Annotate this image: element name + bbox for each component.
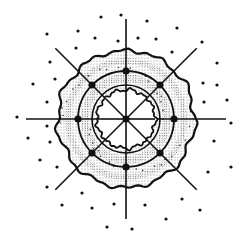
band-speck xyxy=(59,122,61,124)
band-speck xyxy=(142,170,144,172)
scatter-dot xyxy=(31,82,34,85)
band-speck xyxy=(118,67,120,69)
band-speck xyxy=(156,93,158,95)
band-speck xyxy=(154,165,156,167)
node-dot xyxy=(122,115,129,122)
scatter-dot xyxy=(170,50,173,53)
node-dot xyxy=(156,149,163,156)
scatter-dot xyxy=(215,83,218,86)
band-speck xyxy=(130,67,132,69)
node-dot xyxy=(170,115,177,122)
scatter-dot xyxy=(116,39,119,42)
scatter-dot xyxy=(60,203,63,206)
band-speck xyxy=(135,168,137,170)
scatter-dot xyxy=(45,100,48,103)
band-speck xyxy=(100,155,102,157)
band-speck xyxy=(61,107,63,109)
node-dot xyxy=(156,81,163,88)
band-speck xyxy=(189,125,191,127)
band-speck xyxy=(161,164,163,166)
scatter-dot xyxy=(200,40,203,43)
scatter-dot xyxy=(119,13,122,16)
scatter-dot xyxy=(38,158,41,161)
diagram-canvas xyxy=(0,0,244,245)
scatter-dot xyxy=(212,139,215,142)
scatter-dot xyxy=(180,197,183,200)
scatter-dot xyxy=(229,121,232,124)
band-speck xyxy=(171,156,173,158)
scatter-dot xyxy=(55,165,58,168)
band-speck xyxy=(62,115,64,117)
scatter-dot xyxy=(74,46,77,49)
band-speck xyxy=(90,129,92,131)
band-speck xyxy=(99,69,101,71)
band-speck xyxy=(148,81,150,83)
scatter-dot xyxy=(225,98,228,101)
band-speck xyxy=(109,161,111,163)
band-speck xyxy=(162,110,164,112)
band-speck xyxy=(98,150,100,152)
node-dot xyxy=(122,67,129,74)
scatter-dot xyxy=(175,26,178,29)
scatter-dot xyxy=(53,77,56,80)
scatter-dot xyxy=(145,19,148,22)
scatter-dot xyxy=(130,227,133,230)
scatter-dot xyxy=(105,225,108,228)
scatter-dot xyxy=(136,36,139,39)
band-speck xyxy=(72,88,74,90)
node-dot xyxy=(74,115,81,122)
band-speck xyxy=(179,145,181,147)
scatter-dot xyxy=(80,191,83,194)
scatter-dot xyxy=(93,36,96,39)
scatter-dot xyxy=(201,81,204,84)
ring-diagram xyxy=(0,0,244,245)
scatter-dot xyxy=(206,170,209,173)
scatter-dot xyxy=(48,140,51,143)
band-speck xyxy=(93,148,95,150)
scatter-dot xyxy=(229,165,232,168)
scatter-dot xyxy=(198,208,201,211)
scatter-dot xyxy=(112,202,115,205)
band-speck xyxy=(160,101,162,103)
scatter-dot xyxy=(26,136,29,139)
scatter-dot xyxy=(45,185,48,188)
band-speck xyxy=(88,75,90,77)
scatter-dot xyxy=(154,37,157,40)
scatter-dot xyxy=(15,115,18,118)
node-dot xyxy=(88,149,95,156)
band-speck xyxy=(161,96,163,98)
node-dot xyxy=(88,81,95,88)
scatter-dot xyxy=(48,60,51,63)
scatter-dot xyxy=(143,203,146,206)
band-speck xyxy=(106,69,108,71)
scatter-dot xyxy=(90,206,93,209)
band-speck xyxy=(92,142,94,144)
band-speck xyxy=(66,101,68,103)
node-dot xyxy=(122,163,129,170)
scatter-dot xyxy=(164,217,167,220)
scatter-dot xyxy=(99,15,102,18)
band-speck xyxy=(88,134,90,136)
scatter-dot xyxy=(215,61,218,64)
scatter-dot xyxy=(76,29,79,32)
scatter-dot xyxy=(45,32,48,35)
scatter-dot xyxy=(45,124,48,127)
band-speck xyxy=(78,84,80,86)
scatter-dot xyxy=(202,100,205,103)
band-speck xyxy=(185,139,187,141)
